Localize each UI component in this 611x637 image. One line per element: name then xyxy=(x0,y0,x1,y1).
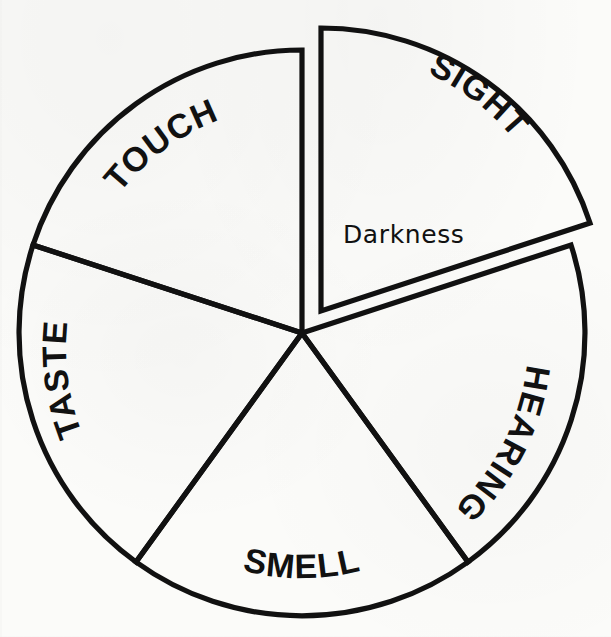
five-senses-pie-chart: TOUCH TASTE SMELL HEARING xyxy=(0,0,611,637)
darkness-annotation: Darkness xyxy=(343,220,464,249)
worksheet-page: TOUCH TASTE SMELL HEARING xyxy=(0,0,611,637)
